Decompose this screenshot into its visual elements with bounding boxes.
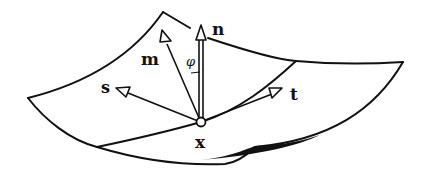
vector-s xyxy=(116,87,198,121)
surface-edge-right xyxy=(255,62,403,147)
surface-diagram: n m s t x φ xyxy=(0,0,426,177)
label-t: t xyxy=(290,84,298,104)
label-x: x xyxy=(195,132,206,152)
label-m: m xyxy=(141,49,159,69)
vector-n xyxy=(196,25,206,118)
surface-edge-peak xyxy=(163,12,190,28)
point-x-marker xyxy=(197,118,206,127)
vector-t xyxy=(203,88,282,121)
surface-edge-upper-right xyxy=(208,38,403,63)
label-phi: φ xyxy=(186,54,196,69)
label-s: s xyxy=(101,78,110,97)
label-n: n xyxy=(212,19,224,39)
surface-edge-left xyxy=(28,98,97,147)
vector-m xyxy=(160,30,199,118)
